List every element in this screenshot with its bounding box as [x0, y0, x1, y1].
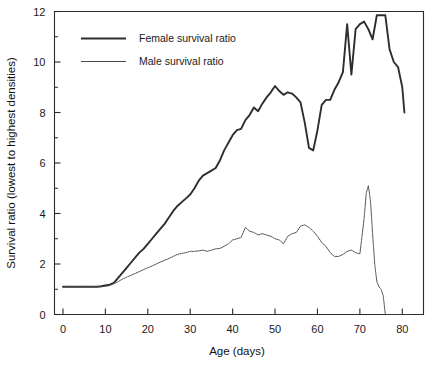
legend-label-male: Male survival ratio: [139, 55, 224, 67]
x-tick-label: 20: [142, 323, 154, 335]
x-tick-label: 60: [311, 323, 323, 335]
x-tick-label: 50: [269, 323, 281, 335]
y-axis-title: Survival ratio (lowest to highest densit…: [5, 57, 17, 269]
x-tick-label: 30: [184, 323, 196, 335]
x-tick-label: 70: [354, 323, 366, 335]
x-axis-title: Age (days): [209, 345, 265, 357]
y-tick-label: 0: [39, 309, 45, 321]
x-tick-label: 40: [227, 323, 239, 335]
y-tick-label: 6: [39, 157, 45, 169]
x-tick-label: 0: [60, 323, 66, 335]
y-tick-label: 4: [39, 208, 45, 220]
y-tick-label: 8: [39, 107, 45, 119]
survival-ratio-line-chart: 024681012 01020304050607080 Female survi…: [0, 0, 431, 369]
x-tick-label: 10: [99, 323, 111, 335]
chart-figure: 024681012 01020304050607080 Female survi…: [0, 0, 431, 369]
x-tick-label: 80: [396, 323, 408, 335]
y-tick-label: 10: [33, 56, 45, 68]
legend-label-female: Female survival ratio: [139, 32, 236, 44]
y-tick-label: 2: [39, 258, 45, 270]
y-tick-label: 12: [33, 6, 45, 18]
